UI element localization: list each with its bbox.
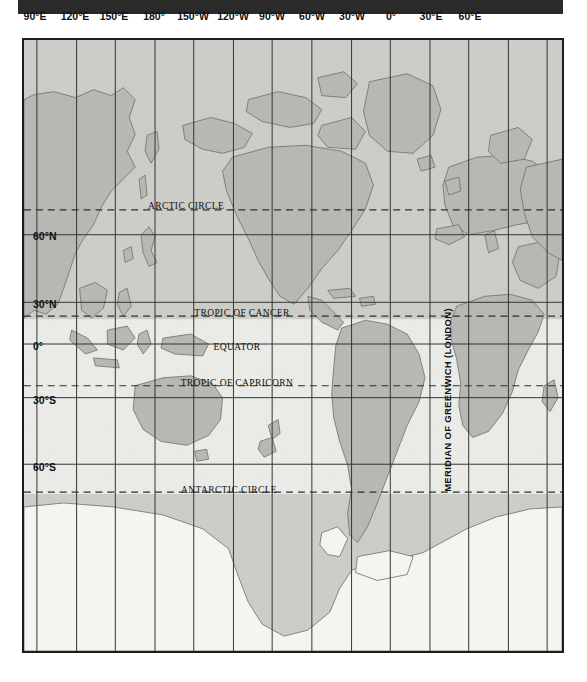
lat-tick-30S: 30°S xyxy=(33,394,56,406)
world-map-frame: ARCTIC CIRCLE TROPIC OF CANCER EQUATOR T… xyxy=(22,38,564,653)
label-meridian-of-greenwich: MERIDIAN OF GREENWICH (LONDON) xyxy=(442,308,453,492)
lon-tick-180: 180° xyxy=(143,10,165,22)
map-canvas xyxy=(24,40,562,651)
lon-tick-150E: 150°E xyxy=(100,10,129,22)
label-tropic-of-capricorn: TROPIC OF CAPRICORN xyxy=(181,378,294,388)
lon-tick-150W: 150°W xyxy=(177,10,209,22)
lon-tick-90W: 90°W xyxy=(259,10,285,22)
label-tropic-of-cancer: TROPIC OF CANCER xyxy=(194,308,290,318)
lon-tick-30W: 30°W xyxy=(339,10,365,22)
label-antarctic-circle: ANTARCTIC CIRCLE xyxy=(181,485,277,495)
lon-tick-60E: 60°E xyxy=(459,10,482,22)
lon-tick-120E: 120°E xyxy=(61,10,90,22)
lon-tick-30E: 30°E xyxy=(420,10,443,22)
lon-tick-60W: 60°W xyxy=(299,10,325,22)
lon-tick-90E: 90°E xyxy=(24,10,47,22)
lat-tick-0: 0° xyxy=(33,340,43,352)
label-equator: EQUATOR xyxy=(214,342,261,352)
label-arctic-circle: ARCTIC CIRCLE xyxy=(148,201,224,211)
land-tasmania xyxy=(195,449,209,461)
land-hispaniola xyxy=(360,296,376,306)
lat-tick-60S: 60°S xyxy=(33,461,56,473)
lat-tick-30N: 30°N xyxy=(33,298,56,310)
lon-tick-0: 0° xyxy=(386,10,396,22)
lon-tick-120W: 120°W xyxy=(217,10,249,22)
lat-tick-60N: 60°N xyxy=(33,230,56,242)
